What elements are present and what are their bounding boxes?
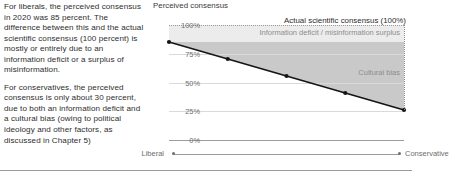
annotation-information-deficit: Information deficit / misinformation sur… — [260, 28, 400, 37]
data-point-2 — [226, 57, 230, 61]
series-perceived-consensus — [146, 0, 412, 173]
data-point-3 — [284, 74, 288, 78]
spectrum-label-liberal: Liberal — [141, 149, 164, 158]
plot-area: 100% 75% 50% 25% 0% Actual scientific co… — [146, 0, 412, 173]
bracket-right-dotted — [404, 25, 405, 110]
page-bottom-rule — [0, 170, 412, 171]
paragraph-conservatives: For conservatives, the perceived consens… — [4, 83, 144, 146]
annotation-cultural-bias: Cultural bias — [358, 68, 400, 77]
annotation-actual-scientific-consensus: Actual scientific consensus (100%) — [284, 16, 406, 25]
paragraph-liberals: For liberals, the perceived consensus in… — [4, 2, 144, 76]
spectrum-line — [174, 154, 399, 155]
data-point-liberal — [167, 40, 171, 44]
chart-panel: Perceived consensus 100% 75% 50% 25% 0% — [146, 0, 412, 173]
explanatory-text-column: For liberals, the perceived consensus in… — [4, 2, 144, 146]
spectrum-label-conservative: Conservative — [405, 149, 449, 158]
political-spectrum-axis: Liberal Conservative — [169, 150, 404, 159]
spectrum-dot-liberal — [172, 152, 175, 155]
data-point-4 — [343, 91, 347, 95]
spectrum-dot-conservative — [398, 152, 401, 155]
